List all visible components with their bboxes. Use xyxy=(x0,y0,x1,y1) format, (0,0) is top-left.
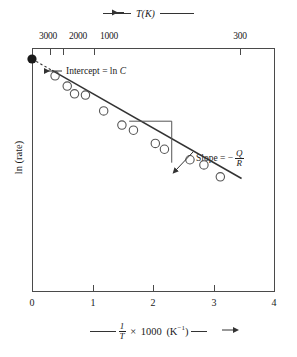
intercept-annotation-symbol: C xyxy=(120,66,126,76)
x-axis-title-unit-close: ) xyxy=(185,326,189,337)
slope-fraction-numerator: Q xyxy=(235,149,244,158)
intercept-annotation: Intercept = ln C xyxy=(66,66,126,76)
bottom-tick-0 xyxy=(32,285,33,292)
x-axis-fraction-numerator: 1 xyxy=(119,322,126,331)
x-axis-title-rule-left xyxy=(90,331,116,332)
arrhenius-figure: T(K) 3000 2000 1000 300 0 1 2 3 4 1 T × … xyxy=(0,0,297,357)
x-axis-title: 1 T × 1000 (K−1) xyxy=(0,322,297,342)
x-axis-fraction-denominator: T xyxy=(119,331,126,341)
x-axis-title-rule-right xyxy=(191,331,207,332)
top-axis-title: T(K) xyxy=(0,7,297,19)
bottom-tick-3 xyxy=(214,285,215,292)
x-axis-title-fraction: 1 T xyxy=(119,322,126,342)
top-axis-title-rule-right xyxy=(160,13,194,14)
top-axis-title-rule-left xyxy=(103,13,131,14)
bottom-tick-1 xyxy=(93,285,94,292)
bottom-tick-2 xyxy=(153,285,154,292)
x-axis-title-1000: 1000 xyxy=(141,326,162,337)
top-tick-label-1000: 1000 xyxy=(100,31,118,41)
bottom-tick-label-0: 0 xyxy=(30,297,35,308)
x-axis-title-times: × xyxy=(128,326,138,337)
top-tick-300 xyxy=(240,48,241,55)
top-tick-3000 xyxy=(50,48,51,55)
top-tick-label-2000: 2000 xyxy=(69,31,87,41)
bottom-tick-label-3: 3 xyxy=(212,297,217,308)
bottom-tick-label-4: 4 xyxy=(272,297,277,308)
top-tick-2000 xyxy=(63,48,64,55)
bottom-tick-4 xyxy=(274,285,275,292)
top-tick-label-300: 300 xyxy=(233,31,247,41)
x-axis-title-unit-exponent: −1 xyxy=(177,324,184,332)
x-axis-title-unit-open: (K xyxy=(164,326,177,337)
plot-frame xyxy=(32,48,275,292)
bottom-tick-label-2: 2 xyxy=(151,297,156,308)
slope-annotation: Slope = −QR xyxy=(196,149,244,169)
top-tick-label-3000: 3000 xyxy=(39,31,57,41)
y-axis-title: ln (rate) xyxy=(13,118,24,198)
top-axis-title-label: T(K) xyxy=(133,8,158,19)
intercept-annotation-text: Intercept = ln xyxy=(66,66,120,76)
slope-annotation-text: Slope = − xyxy=(196,153,233,163)
slope-annotation-fraction: QR xyxy=(235,149,244,169)
slope-fraction-denominator: R xyxy=(235,158,244,168)
bottom-tick-label-1: 1 xyxy=(91,297,96,308)
top-tick-1000 xyxy=(94,48,95,55)
